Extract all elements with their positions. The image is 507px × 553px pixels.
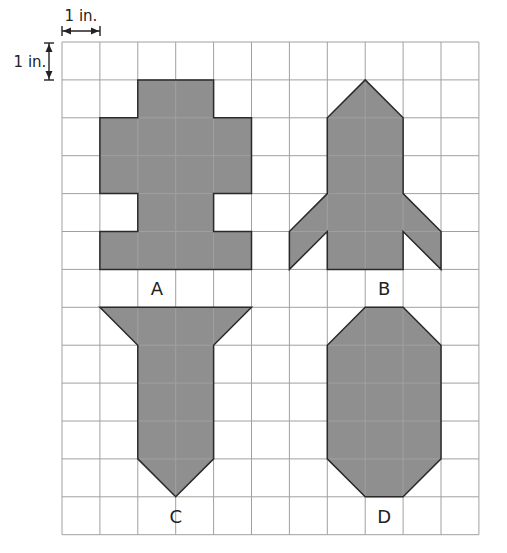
- vertical-scale-indicator: 1 in.: [14, 43, 54, 80]
- shape-label-d: D: [377, 506, 391, 527]
- shape-label-a: A: [151, 278, 164, 299]
- horizontal-scale-label: 1 in.: [65, 7, 98, 25]
- grid-diagram: ABCD 1 in. 1 in.: [0, 0, 507, 553]
- horizontal-scale-indicator: 1 in.: [62, 7, 100, 36]
- arrowhead-right-icon: [91, 28, 99, 35]
- shape-d-fill: [327, 307, 441, 497]
- vertical-scale-label: 1 in.: [14, 53, 47, 71]
- shape-label-c: C: [169, 506, 182, 527]
- arrowhead-down-icon: [46, 71, 53, 79]
- arrowhead-up-icon: [46, 44, 53, 52]
- arrowhead-left-icon: [63, 28, 71, 35]
- shape-label-b: B: [378, 278, 390, 299]
